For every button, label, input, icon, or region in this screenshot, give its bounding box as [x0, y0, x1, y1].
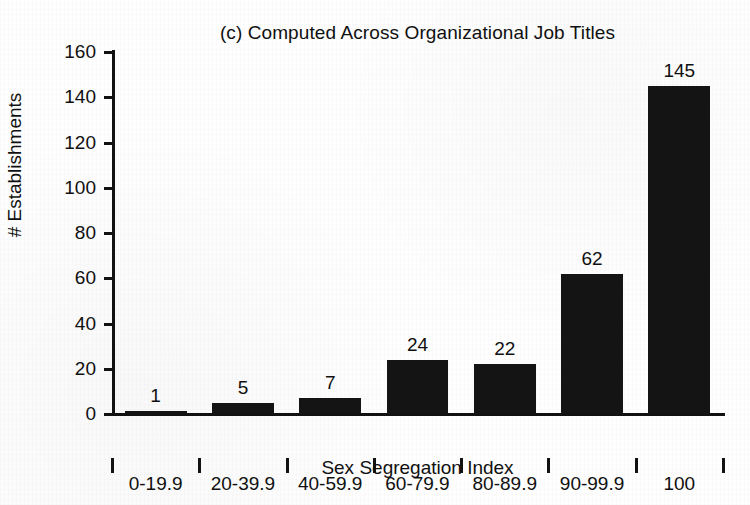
bar: [561, 274, 623, 414]
y-axis-tick: [104, 413, 115, 416]
x-axis-tick-label: 0-19.9: [106, 473, 205, 495]
y-axis-tick-label: 0: [8, 404, 96, 423]
bar-value-label: 62: [548, 249, 635, 269]
plot-area: 020406080100120140160 0-19.920-39.940-59…: [112, 52, 723, 414]
bar-value-label: 24: [374, 335, 461, 355]
bar-value-label: 1: [112, 386, 199, 406]
y-axis-tick: [104, 51, 115, 54]
x-axis-tick: [722, 458, 725, 473]
y-axis-tick-label: 60: [8, 268, 96, 287]
x-axis-tick: [373, 458, 376, 473]
y-axis-tick-label: 160: [8, 42, 96, 61]
bar-value-label: 5: [199, 378, 286, 398]
x-axis-tick-label: 60-79.9: [368, 473, 467, 495]
bar: [648, 86, 710, 414]
bar-value-label: 145: [636, 61, 723, 81]
y-axis-tick-label: 20: [8, 359, 96, 378]
y-axis-tick: [104, 187, 115, 190]
x-axis-tick-label: 80-89.9: [455, 473, 554, 495]
x-axis-tick: [111, 458, 114, 473]
y-axis-tick-label: 140: [8, 87, 96, 106]
y-axis-tick: [104, 142, 115, 145]
x-axis-tick-label: 40-59.9: [281, 473, 380, 495]
x-axis-tick: [547, 458, 550, 473]
bar-value-label: 7: [287, 373, 374, 393]
y-axis-tick-label: 80: [8, 223, 96, 242]
x-axis-tick-label: 90-99.9: [542, 473, 641, 495]
x-axis-tick: [286, 458, 289, 473]
y-axis-tick: [104, 96, 115, 99]
bar-chart-figure: (c) Computed Across Organizational Job T…: [0, 0, 750, 505]
y-axis-tick: [104, 232, 115, 235]
x-axis-tick: [460, 458, 463, 473]
bar: [212, 403, 274, 414]
chart-title: (c) Computed Across Organizational Job T…: [112, 22, 723, 44]
bar: [474, 364, 536, 414]
y-axis-tick: [104, 277, 115, 280]
bar: [125, 411, 187, 414]
x-axis-tick-label: 100: [630, 473, 729, 495]
y-axis-tick-label: 100: [8, 178, 96, 197]
bar-value-label: 22: [461, 339, 548, 359]
x-axis-tick: [198, 458, 201, 473]
x-axis-tick-label: 20-39.9: [193, 473, 292, 495]
bar: [387, 360, 449, 414]
x-axis-tick: [635, 458, 638, 473]
y-axis-tick-label: 40: [8, 314, 96, 333]
y-axis-tick-label: 120: [8, 133, 96, 152]
y-axis-tick: [104, 368, 115, 371]
y-axis-tick: [104, 323, 115, 326]
bar: [299, 398, 361, 414]
